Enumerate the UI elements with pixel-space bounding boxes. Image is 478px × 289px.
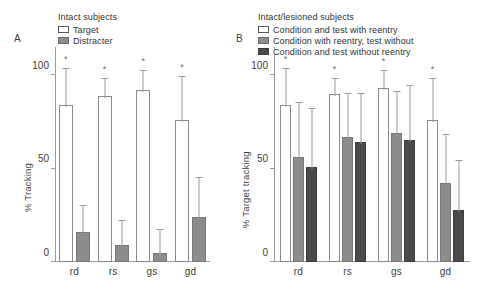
error-bar-cap: [442, 134, 449, 135]
error-bar: [360, 94, 361, 145]
bar: [440, 183, 451, 262]
error-bar-cap: [179, 76, 186, 77]
bar-slot-rd-2: [306, 47, 317, 262]
x-tick-label-gd: gd: [171, 262, 210, 277]
bars-rs: *: [329, 47, 366, 262]
error-bar: [199, 178, 200, 219]
error-bar-cap: [282, 68, 289, 69]
y-tick-a-50: [51, 168, 55, 169]
bar: [115, 245, 129, 262]
legend-item-cond-reentry-test-without: Condition with reentry, test without: [258, 35, 414, 46]
y-tick-label-a-100: 100: [32, 59, 49, 70]
error-bar: [458, 161, 459, 212]
bar-slot-gd-1: [440, 47, 451, 262]
x-tick-label-rd: rd: [55, 262, 94, 277]
bar-slot-gd-0: *: [427, 47, 438, 262]
bar-group-gs: *gs: [372, 47, 421, 262]
error-bar-cap: [357, 93, 364, 94]
bar: [427, 120, 438, 262]
bar-slot-rs-0: *: [98, 47, 112, 262]
bar-slot-rd-1: [293, 47, 304, 262]
significance-marker: *: [284, 55, 288, 64]
error-bar-cap: [344, 93, 351, 94]
error-bar: [432, 79, 433, 122]
y-tick-label-b-50: 50: [257, 153, 268, 164]
x-tick-label-gd: gd: [421, 262, 470, 277]
bar-slot-gs-0: *: [136, 47, 150, 262]
error-bar-cap: [196, 177, 203, 178]
y-tick-label-a-50: 50: [38, 153, 49, 164]
bar: [136, 90, 150, 262]
error-bar: [383, 71, 384, 90]
error-bar-cap: [393, 91, 400, 92]
error-bar-cap: [79, 205, 86, 206]
panel-b-letter: B: [236, 33, 243, 44]
panel-b-legend-title: Intact/lesioned subjects: [258, 12, 414, 22]
error-bar-cap: [118, 220, 125, 221]
legend-label-target: Target: [73, 25, 99, 35]
error-bar-cap: [455, 160, 462, 161]
panel-b-bar-groups: *rd*rs*gs*gd: [274, 47, 470, 262]
error-bar: [121, 221, 122, 247]
bar-slot-gd-1: [192, 47, 206, 262]
legend-item-target: Target: [58, 24, 117, 35]
legend-label-distracter: Distracter: [73, 36, 113, 46]
bars-gs: *: [136, 47, 167, 262]
error-bar: [445, 135, 446, 186]
significance-marker: *: [180, 63, 184, 72]
bar-group-gd: *gd: [171, 47, 210, 262]
y-tick-a-100: [51, 74, 55, 75]
error-bar: [396, 92, 397, 135]
error-bar-cap: [308, 108, 315, 109]
legend-swatch-without-reentry-icon: [258, 48, 269, 55]
error-bar-cap: [101, 78, 108, 79]
bar-slot-gd-0: *: [175, 47, 189, 262]
error-bar: [143, 71, 144, 92]
y-tick-label-b-0: 0: [262, 246, 268, 257]
x-tick-label-rd: rd: [274, 262, 323, 277]
bar-slot-rs-1: [342, 47, 353, 262]
error-bar: [409, 86, 410, 142]
y-tick-label-a-0: 0: [43, 246, 49, 257]
error-bar-cap: [331, 78, 338, 79]
panel-b: B Intact/lesioned subjects Condition and…: [222, 0, 478, 289]
y-tick-a-0: [51, 261, 55, 262]
bar-group-rs: *rs: [94, 47, 133, 262]
error-bar-cap: [380, 70, 387, 71]
error-bar: [104, 79, 105, 98]
bar-group-rd: *rd: [274, 47, 323, 262]
legend-label-test-without: Condition with reentry, test without: [273, 36, 414, 46]
panel-b-plot-area: *rd*rs*gs*gd 050100: [274, 47, 470, 262]
bars-gd: *: [427, 47, 464, 262]
bar-slot-rd-1: [76, 47, 90, 262]
bar-slot-rs-1: [115, 47, 129, 262]
bar-group-gs: *gs: [133, 47, 172, 262]
y-tick-b-0: [270, 261, 274, 262]
bar-group-rs: *rs: [323, 47, 372, 262]
error-bar: [65, 69, 66, 107]
bars-rd: *: [59, 47, 90, 262]
bar: [355, 142, 366, 262]
error-bar: [334, 79, 335, 96]
bar-slot-gd-2: [453, 47, 464, 262]
bar-slot-gs-0: *: [378, 47, 389, 262]
bar-slot-rs-0: *: [329, 47, 340, 262]
bar: [293, 157, 304, 262]
error-bar-cap: [429, 78, 436, 79]
error-bar: [311, 109, 312, 169]
bar-group-rd: *rd: [55, 47, 94, 262]
significance-marker: *: [64, 55, 68, 64]
error-bar: [285, 69, 286, 107]
x-tick-label-gs: gs: [133, 262, 172, 277]
significance-marker: *: [103, 65, 107, 74]
bars-rd: *: [280, 47, 317, 262]
bar: [342, 137, 353, 262]
bars-gd: *: [175, 47, 206, 262]
error-bar-cap: [295, 102, 302, 103]
panel-a-bar-groups: *rd*rs*gs*gd: [55, 47, 210, 262]
panel-b-y-axis-label: % Target tracking: [240, 151, 251, 228]
error-bar: [182, 77, 183, 122]
significance-marker: *: [431, 65, 435, 74]
bar-group-gd: *gd: [421, 47, 470, 262]
error-bar-cap: [62, 68, 69, 69]
